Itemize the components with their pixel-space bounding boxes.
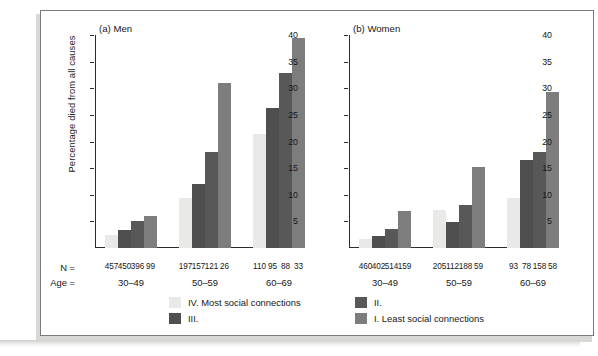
y-axis-tick (90, 35, 94, 36)
y-axis-tick-label: 30 (542, 83, 552, 93)
legend-label: II. (374, 297, 382, 308)
y-axis-tick-label: 5 (293, 216, 298, 226)
figure-canvas: Percentage died from all causes (a) Men … (41, 11, 593, 335)
y-axis-tick-label: 20 (542, 137, 552, 147)
n-value-label: 26 (220, 262, 229, 271)
bar (266, 108, 279, 248)
y-axis-tick-label: 5 (547, 216, 552, 226)
n-value-label: 396 (131, 262, 145, 271)
bar (253, 134, 266, 248)
y-axis-tick-label: 15 (542, 163, 552, 173)
n-value-label: 188 (459, 262, 473, 271)
legend-swatch-icon (169, 313, 181, 324)
panel-women-title: (b) Women (353, 23, 400, 34)
bar (507, 198, 520, 248)
bar (520, 160, 533, 248)
age-group-label: 60–69 (520, 277, 546, 288)
n-value-label: 93 (509, 262, 518, 271)
figure-frame: Percentage died from all causes (a) Men … (40, 10, 594, 336)
y-axis-tick (344, 142, 348, 143)
bar (144, 216, 157, 248)
n-value-label: 197 (179, 262, 193, 271)
legend-iii: III. (169, 313, 198, 324)
y-axis-tick-label: 40 (288, 30, 298, 40)
n-value-label: 157 (192, 262, 206, 271)
bar (118, 230, 131, 248)
y-axis-tick-label: 30 (288, 83, 298, 93)
bar (279, 73, 292, 248)
bar (359, 239, 372, 248)
bar (218, 83, 231, 248)
y-axis-tick (344, 115, 348, 116)
n-row-caption: N = (35, 262, 75, 273)
y-axis-tick-label: 35 (288, 57, 298, 67)
n-value-label: 88 (281, 262, 290, 271)
y-axis-tick (344, 35, 348, 36)
legend-swatch-icon (355, 313, 367, 324)
panel-women-plot-area: 510152025303540 (349, 35, 559, 248)
y-axis-tick-label: 35 (542, 57, 552, 67)
y-axis-tick (90, 115, 94, 116)
legend-swatch-icon (169, 297, 181, 308)
y-axis-tick (90, 168, 94, 169)
y-axis-tick (344, 62, 348, 63)
y-axis-tick-label: 25 (288, 110, 298, 120)
bar (446, 222, 459, 248)
y-axis-line (349, 35, 350, 248)
legend-label: I. Least social connections (374, 313, 484, 324)
bar (459, 205, 472, 248)
y-axis-tick (90, 195, 94, 196)
age-group-label: 60–69 (266, 277, 292, 288)
bar (398, 211, 411, 248)
n-value-label: 121 (205, 262, 219, 271)
n-value-label: 450 (118, 262, 132, 271)
legend-label: III. (188, 313, 198, 324)
panel-women: (b) Women 510152025303540 46040251415930… (313, 19, 563, 319)
page-edge-shadow (0, 340, 580, 347)
legend-label: IV. Most social connections (188, 297, 301, 308)
y-axis-tick (344, 195, 348, 196)
bar (205, 152, 218, 248)
age-group-label: 30–49 (372, 277, 398, 288)
bar (433, 210, 446, 248)
y-axis-tick (90, 62, 94, 63)
y-axis-tick (90, 142, 94, 143)
n-value-label: 59 (474, 262, 483, 271)
y-axis-tick-label: 40 (542, 30, 552, 40)
n-value-label: 95 (268, 262, 277, 271)
bar (105, 235, 118, 248)
legend-iv: IV. Most social connections (169, 297, 301, 308)
n-value-label: 159 (398, 262, 412, 271)
n-value-label: 158 (533, 262, 547, 271)
age-group-label: 50–59 (446, 277, 472, 288)
bar (472, 167, 485, 248)
panel-men-plot-area: 510152025303540 (95, 35, 305, 248)
y-axis-tick-label: 10 (288, 190, 298, 200)
y-axis-tick-label: 25 (542, 110, 552, 120)
n-value-label: 99 (146, 262, 155, 271)
y-axis-tick (344, 88, 348, 89)
bar (372, 236, 385, 248)
n-value-label: 112 (446, 262, 459, 271)
age-row-caption: Age = (35, 277, 75, 288)
n-value-label: 33 (294, 262, 303, 271)
bar (385, 229, 398, 248)
legend-ii: II. (355, 297, 382, 308)
bar (131, 221, 144, 248)
n-value-label: 460 (359, 262, 373, 271)
y-axis-line (95, 35, 96, 248)
bar (192, 184, 205, 248)
n-value-label: 110 (253, 262, 266, 271)
y-axis-tick-label: 15 (288, 163, 298, 173)
y-axis-tick-label: 10 (542, 190, 552, 200)
n-value-label: 205 (433, 262, 447, 271)
y-axis-tick (90, 88, 94, 89)
y-axis-tick (344, 168, 348, 169)
y-axis-tick (90, 221, 94, 222)
n-value-label: 58 (548, 262, 557, 271)
n-value-label: 457 (105, 262, 119, 271)
legend-i: I. Least social connections (355, 313, 484, 324)
age-group-label: 30–49 (118, 277, 144, 288)
panel-men-title: (a) Men (99, 23, 132, 34)
legend: IV. Most social connectionsIII.II.I. Lea… (169, 297, 549, 331)
